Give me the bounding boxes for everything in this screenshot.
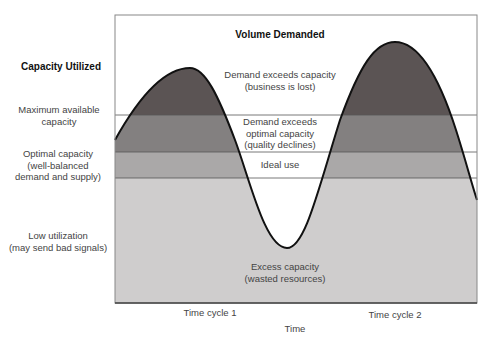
x-tick-time-cycle-1: Time cycle 1: [170, 307, 250, 319]
y-level-max-capacity: Maximum available capacity: [4, 104, 114, 127]
x-axis-title: Time: [275, 323, 315, 335]
curve-label-volume-demanded: Volume Demanded: [225, 29, 335, 41]
zone-label-demand-exceeds-optimal: Demand exceeds optimal capacity (quality…: [225, 116, 335, 151]
y-level-low-utilization: Low utilization (may send bad signals): [0, 230, 116, 253]
y-axis-title: Capacity Utilized: [6, 61, 116, 73]
zone-label-ideal-use: Ideal use: [240, 159, 320, 171]
y-level-optimal-capacity: Optimal capacity (well-balanced demand a…: [0, 148, 116, 183]
zone-label-excess-capacity: Excess capacity (wasted resources): [230, 261, 340, 284]
x-tick-time-cycle-2: Time cycle 2: [355, 309, 435, 321]
zone-label-demand-exceeds-capacity: Demand exceeds capacity (business is los…: [215, 69, 345, 92]
